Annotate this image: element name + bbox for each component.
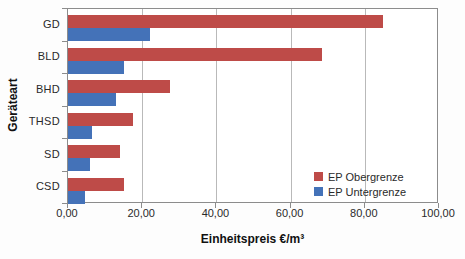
y-axis-tick — [62, 73, 67, 74]
bar-ep-obergrenze-sd — [68, 145, 120, 158]
x-tick-label-40: 40,00 — [188, 207, 242, 219]
legend-swatch-icon — [314, 187, 323, 196]
legend-swatch-icon — [314, 172, 323, 181]
x-tick-label-80: 80,00 — [337, 207, 391, 219]
x-tick-label-100: 100,00 — [411, 207, 465, 219]
bar-ep-untergrenze-thsd — [68, 126, 92, 139]
y-axis-tick — [62, 106, 67, 107]
bar-ep-untergrenze-csd — [68, 191, 85, 204]
bar-ep-obergrenze-csd — [68, 178, 124, 191]
category-label-thsd: THSD — [0, 115, 60, 128]
category-label-bld: BLD — [0, 50, 60, 63]
x-tick-label-0: 0,00 — [40, 207, 94, 219]
y-axis-tick — [62, 138, 67, 139]
bar-ep-untergrenze-gd — [68, 28, 150, 41]
y-axis-tick — [62, 8, 67, 9]
category-label-csd: CSD — [0, 180, 60, 193]
x-axis-title: Einheitspreis €/m³ — [142, 232, 363, 246]
x-tick-label-20: 20,00 — [114, 207, 168, 219]
bar-ep-untergrenze-sd — [68, 158, 90, 171]
plot-area: EP ObergrenzeEP Untergrenze — [67, 8, 438, 203]
legend-item-ep-untergrenze: EP Untergrenze — [314, 184, 406, 199]
bar-ep-obergrenze-thsd — [68, 113, 133, 126]
legend: EP ObergrenzeEP Untergrenze — [314, 169, 406, 199]
bar-ep-obergrenze-bld — [68, 48, 322, 61]
bar-ep-obergrenze-gd — [68, 15, 383, 28]
gridline-60 — [291, 9, 292, 202]
y-axis-tick — [62, 171, 67, 172]
legend-item-ep-obergrenze: EP Obergrenze — [314, 169, 406, 184]
gridline-40 — [216, 9, 217, 202]
category-label-gd: GD — [0, 18, 60, 31]
y-axis-title: Geräteart — [6, 55, 22, 155]
bar-ep-obergrenze-bhd — [68, 80, 170, 93]
bar-chart: Geräteart EP ObergrenzeEP Untergrenze Ei… — [0, 0, 465, 259]
legend-label: EP Obergrenze — [328, 171, 404, 183]
bar-ep-untergrenze-bhd — [68, 93, 116, 106]
x-tick-label-60: 60,00 — [263, 207, 317, 219]
y-axis-tick — [62, 41, 67, 42]
bar-ep-untergrenze-bld — [68, 61, 124, 74]
category-label-bhd: BHD — [0, 83, 60, 96]
category-label-sd: SD — [0, 148, 60, 161]
legend-label: EP Untergrenze — [328, 186, 406, 198]
